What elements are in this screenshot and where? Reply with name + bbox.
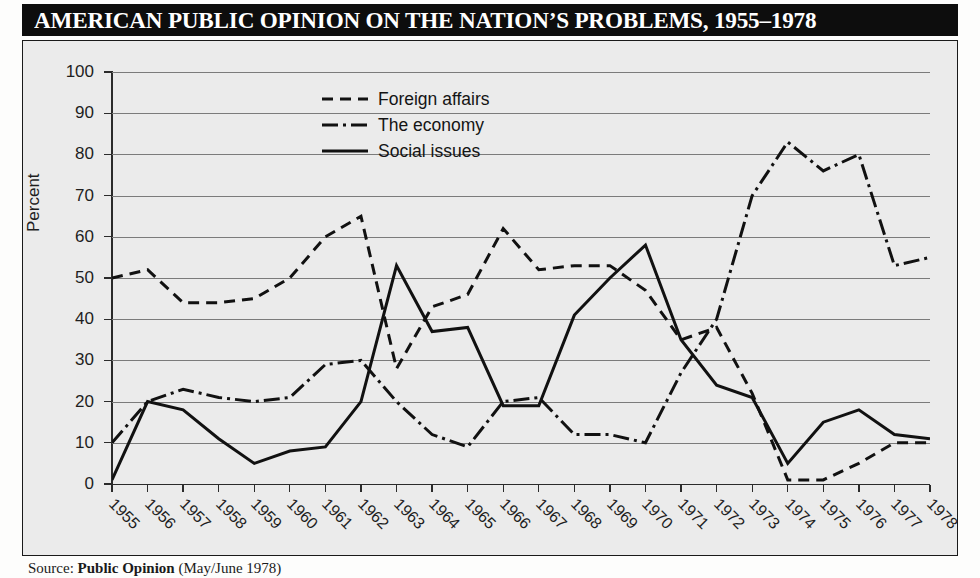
y-tick-mark <box>104 195 111 196</box>
x-tick-mark <box>111 485 112 492</box>
x-tick-mark <box>254 485 255 492</box>
y-tick-label: 20 <box>52 392 94 412</box>
y-tick-label: 80 <box>52 144 94 164</box>
y-tick-mark <box>104 71 111 72</box>
x-tick-mark <box>609 485 610 492</box>
legend-label: Social issues <box>378 141 480 162</box>
x-tick-mark <box>325 485 326 492</box>
y-axis-label: Percent <box>24 173 44 232</box>
y-tick-label: 70 <box>52 186 94 206</box>
x-tick-mark <box>147 485 148 492</box>
y-tick-mark <box>104 319 111 320</box>
x-tick-mark <box>538 485 539 492</box>
legend-item-the-economy: The economy <box>322 112 562 138</box>
x-tick-mark <box>894 485 895 492</box>
x-tick-mark <box>716 485 717 492</box>
x-tick-mark <box>645 485 646 492</box>
x-tick-mark <box>823 485 824 492</box>
x-tick-mark <box>929 485 930 492</box>
x-tick-mark <box>467 485 468 492</box>
source-prefix: Source: <box>28 560 78 576</box>
legend-label: Foreign affairs <box>378 89 490 110</box>
x-tick-mark <box>752 485 753 492</box>
y-tick-label: 10 <box>52 433 94 453</box>
series-line-social-issues <box>112 245 930 480</box>
y-tick-label: 90 <box>52 103 94 123</box>
x-tick-mark <box>787 485 788 492</box>
y-tick-mark <box>104 113 111 114</box>
figure: AMERICAN PUBLIC OPINION ON THE NATION’S … <box>0 0 980 578</box>
x-tick-mark <box>503 485 504 492</box>
y-tick-mark <box>104 483 111 484</box>
legend-label: The economy <box>378 115 484 136</box>
x-tick-mark <box>680 485 681 492</box>
x-tick-mark <box>182 485 183 492</box>
chart-title-banner: AMERICAN PUBLIC OPINION ON THE NATION’S … <box>22 4 958 36</box>
page-title: AMERICAN PUBLIC OPINION ON THE NATION’S … <box>34 7 816 34</box>
legend-item-social-issues: Social issues <box>322 138 562 164</box>
x-tick-mark <box>360 485 361 492</box>
x-tick-mark <box>858 485 859 492</box>
y-tick-mark <box>104 277 111 278</box>
source-note: Source: Public Opinion (May/June 1978) <box>28 560 281 577</box>
x-tick-mark <box>574 485 575 492</box>
x-tick-mark <box>431 485 432 492</box>
source-suffix: (May/June 1978) <box>175 560 282 576</box>
y-tick-mark <box>104 236 111 237</box>
chart-legend: Foreign affairsThe economySocial issues <box>322 86 562 164</box>
dash-line-icon <box>322 92 368 106</box>
y-tick-mark <box>104 154 111 155</box>
y-tick-mark <box>104 401 111 402</box>
x-tick-mark <box>289 485 290 492</box>
source-publication: Public Opinion <box>78 560 175 576</box>
y-tick-label: 40 <box>52 309 94 329</box>
y-tick-label: 0 <box>52 474 94 494</box>
y-tick-label: 50 <box>52 268 94 288</box>
dash-dot-line-icon <box>322 118 368 132</box>
y-tick-label: 60 <box>52 227 94 247</box>
series-line-the-economy <box>112 142 930 447</box>
solid-line-icon <box>322 144 368 158</box>
x-tick-mark <box>396 485 397 492</box>
y-tick-label: 100 <box>52 62 94 82</box>
y-tick-label: 30 <box>52 350 94 370</box>
legend-item-foreign-affairs: Foreign affairs <box>322 86 562 112</box>
y-tick-mark <box>104 442 111 443</box>
y-tick-mark <box>104 360 111 361</box>
x-tick-mark <box>218 485 219 492</box>
